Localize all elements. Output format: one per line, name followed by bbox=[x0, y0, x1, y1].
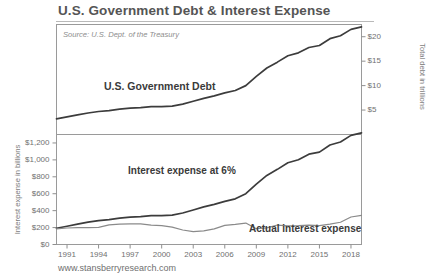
left-axis-tick-label: $200 bbox=[4, 223, 50, 232]
x-axis-tick-label: 2003 bbox=[176, 250, 210, 259]
series-lines bbox=[57, 27, 362, 232]
left-axis-tick-label: $1,200 bbox=[4, 138, 50, 147]
x-axis-tick-label: 2006 bbox=[208, 250, 242, 259]
series-label-debt: U.S. Government Debt bbox=[104, 80, 215, 92]
right-axis-tick-label: $15 bbox=[368, 56, 398, 65]
series-label-actual-interest: Actual interest expense bbox=[249, 223, 361, 234]
x-axis-tick-label: 2009 bbox=[239, 250, 273, 259]
source-note: Source: U.S. Dept. of the Treasury bbox=[63, 30, 179, 39]
axis-ticks bbox=[53, 37, 366, 249]
x-axis-tick-label: 2018 bbox=[334, 250, 368, 259]
right-axis-tick-label: $20 bbox=[368, 32, 398, 41]
left-axis-tick-label: $0 bbox=[4, 240, 50, 249]
right-axis-tick-label: $10 bbox=[368, 81, 398, 90]
left-axis-tick-label: $1,000 bbox=[4, 155, 50, 164]
x-axis-tick-label: 2012 bbox=[271, 250, 305, 259]
chart-container: U.S. Government Debt & Interest Expense … bbox=[0, 0, 434, 279]
chart-plot-area bbox=[0, 0, 434, 279]
left-axis-tick-label: $800 bbox=[4, 172, 50, 181]
series-label-interest-6pct: Interest expense at 6% bbox=[128, 165, 236, 176]
series-line bbox=[57, 27, 362, 119]
x-axis-tick-label: 1991 bbox=[50, 250, 84, 259]
x-axis-tick-label: 1997 bbox=[113, 250, 147, 259]
right-axis-tick-label: $5 bbox=[368, 105, 398, 114]
footer-url: www.stansberryresearch.com bbox=[58, 263, 176, 273]
x-axis-tick-label: 2000 bbox=[145, 250, 179, 259]
right-axis-title: Total debt in trillions bbox=[418, 27, 427, 127]
x-axis-tick-label: 1994 bbox=[82, 250, 116, 259]
left-axis-tick-label: $600 bbox=[4, 189, 50, 198]
x-axis-tick-label: 2015 bbox=[302, 250, 336, 259]
left-axis-tick-label: $400 bbox=[4, 206, 50, 215]
series-line bbox=[57, 133, 362, 228]
